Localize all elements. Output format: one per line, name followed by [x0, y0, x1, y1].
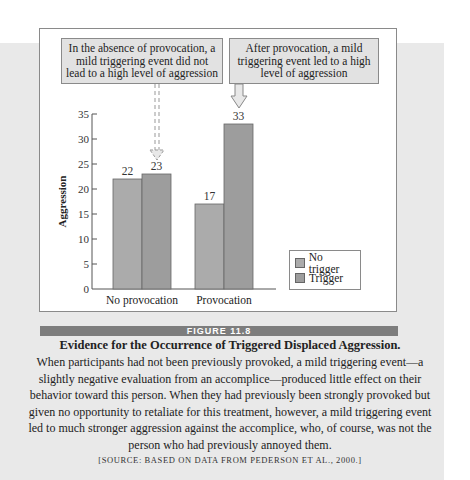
y-axis-label: Aggression — [56, 176, 68, 228]
bar — [142, 174, 171, 289]
bar — [195, 204, 224, 289]
y-tick-label: 5 — [84, 258, 90, 270]
y-tick-label: 20 — [78, 183, 90, 195]
caption-title: Evidence for the Occurrence of Triggered… — [20, 337, 440, 354]
dashed-arrow-head-icon — [150, 150, 164, 160]
y-tick-label: 0 — [84, 283, 90, 295]
bar — [224, 124, 253, 289]
y-tick-label: 30 — [78, 133, 90, 145]
caption-body-text: When participants had not been previousl… — [28, 355, 431, 452]
x-category-label: No provocation — [106, 294, 178, 307]
y-tick-label: 15 — [78, 208, 90, 220]
caption-source: [SOURCE: BASED ON DATA FROM PEDERSON ET … — [20, 453, 440, 467]
legend-swatch-trigger — [295, 273, 305, 283]
y-tick-label: 10 — [78, 233, 90, 245]
bar-value-label: 33 — [233, 110, 245, 122]
bar — [113, 179, 142, 289]
y-tick-label: 25 — [78, 158, 90, 170]
legend-label: Trigger — [309, 272, 343, 284]
caption-body: When participants had not been previousl… — [20, 354, 440, 453]
bar-value-label: 17 — [204, 190, 216, 202]
figure-caption: Evidence for the Occurrence of Triggered… — [20, 337, 440, 467]
x-category-label: Provocation — [196, 294, 252, 306]
legend-item-no-trigger: No trigger — [295, 255, 355, 270]
bar-value-label: 22 — [122, 165, 134, 177]
arrow-down-icon — [231, 84, 247, 108]
bar-value-label: 23 — [151, 160, 163, 172]
legend-swatch-no-trigger — [295, 258, 305, 268]
figure-label: FIGURE 11.8 — [40, 326, 398, 336]
legend: No trigger Trigger — [289, 250, 361, 290]
y-tick-label: 35 — [78, 108, 90, 120]
